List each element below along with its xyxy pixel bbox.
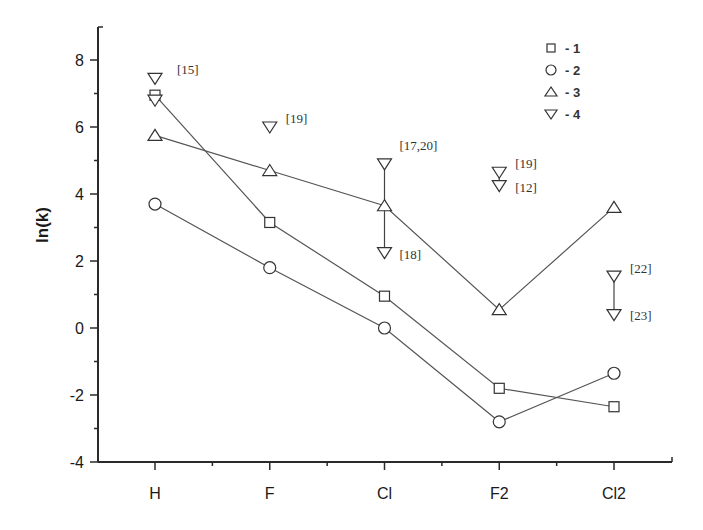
legend: - 1- 2- 3- 4 (545, 41, 581, 122)
annotation-label: [19] (286, 111, 308, 126)
annotation-label: [15] (177, 62, 199, 77)
y-tick-label: -2 (70, 387, 84, 404)
legend-label: - 4 (565, 107, 581, 122)
x-tick-label: F (265, 485, 275, 502)
legend-label: - 1 (565, 41, 580, 56)
circle-marker (264, 262, 276, 274)
triangle-up-marker (545, 87, 557, 96)
triangle-down-marker (492, 181, 506, 192)
y-tick-label: 8 (75, 52, 84, 69)
y-axis-title: ln(k) (33, 207, 52, 243)
annotation-label: [18] (400, 247, 422, 262)
triangle-down-marker (607, 310, 621, 321)
chart: -4-202468HFClF2Cl2 [15][19][17,20][18][1… (0, 0, 703, 530)
circle-marker (608, 367, 620, 379)
annotation-label: [23] (630, 308, 652, 323)
annotation-label: [12] (515, 180, 537, 195)
triangle-down-marker (545, 110, 557, 119)
circle-marker (149, 198, 161, 210)
annotation-label: [17,20] (400, 138, 438, 153)
x-tick-label: Cl (377, 485, 392, 502)
triangle-up-marker (378, 200, 392, 211)
triangle-up-marker (263, 165, 277, 176)
y-tick-label: 6 (75, 119, 84, 136)
y-tick-label: 4 (75, 186, 84, 203)
triangle-down-marker (607, 271, 621, 282)
legend-label: - 2 (565, 63, 580, 78)
triangle-down-marker (378, 159, 392, 170)
triangle-down-marker (378, 248, 392, 259)
x-tick-label: F2 (490, 485, 509, 502)
triangle-up-marker (148, 129, 162, 140)
circle-marker (379, 322, 391, 334)
annotation-label: [19] (515, 156, 537, 171)
square-marker (265, 217, 275, 227)
circle-marker (546, 65, 556, 75)
square-marker (609, 402, 619, 412)
y-tick-label: 2 (75, 253, 84, 270)
square-marker (380, 291, 390, 301)
triangle-up-marker (607, 201, 621, 212)
x-tick-label: Cl2 (602, 485, 626, 502)
square-marker (547, 44, 555, 52)
y-tick-label: 0 (75, 320, 84, 337)
x-tick-label: H (149, 485, 161, 502)
legend-label: - 3 (565, 85, 580, 100)
triangle-down-marker (148, 73, 162, 84)
triangle-down-marker (492, 167, 506, 178)
square-marker (494, 383, 504, 393)
circle-marker (493, 416, 505, 428)
annotation-label: [22] (630, 261, 652, 276)
triangle-down-marker (263, 122, 277, 133)
y-tick-label: -4 (70, 454, 84, 471)
